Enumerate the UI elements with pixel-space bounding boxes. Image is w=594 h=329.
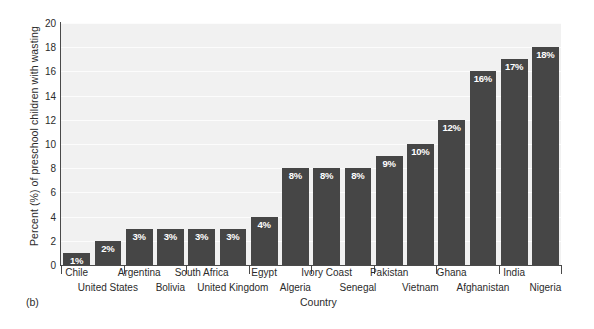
- x-axis-category-label: Argentina: [118, 267, 161, 278]
- bar-value-label: 10%: [407, 146, 434, 157]
- x-axis-category-label: United Kingdom: [197, 282, 268, 293]
- bar-slot: 3%: [124, 23, 155, 265]
- y-axis-tick-label: 14: [4, 90, 56, 101]
- x-axis-category-label: India: [503, 267, 525, 278]
- bar-slot: 3%: [217, 23, 248, 265]
- bar-slot: 1%: [61, 23, 92, 265]
- x-axis-tick: [561, 265, 562, 274]
- bar-value-label: 3%: [188, 231, 215, 242]
- bar-slot: 8%: [342, 23, 373, 265]
- bar[interactable]: 8%: [313, 168, 340, 265]
- x-axis-category-label: Chile: [65, 267, 88, 278]
- y-axis-tick-label: 2: [4, 235, 56, 246]
- x-axis-category-label: Ghana: [437, 267, 467, 278]
- bar[interactable]: 4%: [251, 217, 278, 265]
- bar[interactable]: 16%: [470, 71, 497, 265]
- x-axis-category-label: United States: [78, 282, 138, 293]
- x-axis-category-label: Egypt: [251, 267, 277, 278]
- x-axis-title: Country: [300, 296, 337, 308]
- bar-value-label: 3%: [126, 231, 153, 242]
- x-axis-category-label: Pakistan: [370, 267, 408, 278]
- bar-slot: 9%: [374, 23, 405, 265]
- bar-value-label: 1%: [63, 255, 90, 265]
- x-axis-category-label: Senegal: [340, 282, 377, 293]
- bar[interactable]: 8%: [345, 168, 372, 265]
- x-axis-category-label: Ivory Coast: [301, 267, 352, 278]
- bar-slot: 12%: [436, 23, 467, 265]
- y-axis-tick-labels: 02468101214161820: [0, 0, 56, 329]
- bar[interactable]: 8%: [282, 168, 309, 265]
- bar-value-label: 9%: [376, 158, 403, 169]
- x-axis-category-label: Bolivia: [156, 282, 185, 293]
- bar[interactable]: 9%: [376, 156, 403, 265]
- bar-series: 1%2%3%3%3%3%4%8%8%8%9%10%12%16%17%18%: [61, 23, 561, 265]
- bar-value-label: 8%: [313, 170, 340, 181]
- bar[interactable]: 3%: [157, 229, 184, 265]
- bar-slot: 18%: [530, 23, 561, 265]
- bar-value-label: 17%: [501, 61, 528, 72]
- bar-value-label: 3%: [220, 231, 247, 242]
- bar-chart-figure: Percent (%) of preschool children with w…: [0, 0, 594, 329]
- bar-slot: 2%: [92, 23, 123, 265]
- y-axis-tick-label: 18: [4, 42, 56, 53]
- bar[interactable]: 2%: [95, 241, 122, 265]
- bar-value-label: 8%: [345, 170, 372, 181]
- bar[interactable]: 3%: [126, 229, 153, 265]
- x-axis-category-label: Vietnam: [402, 282, 439, 293]
- bar[interactable]: 18%: [532, 47, 559, 265]
- bar-slot: 4%: [249, 23, 280, 265]
- plot-area: 1%2%3%3%3%3%4%8%8%8%9%10%12%16%17%18%: [61, 23, 561, 265]
- bar[interactable]: 17%: [501, 59, 528, 265]
- y-axis-tick-label: 6: [4, 187, 56, 198]
- x-axis-category-label: Afghanistan: [456, 282, 509, 293]
- y-axis-tick-label: 10: [4, 139, 56, 150]
- bar-value-label: 18%: [532, 49, 559, 60]
- bar-value-label: 12%: [438, 122, 465, 133]
- panel-label: (b): [26, 296, 39, 308]
- bar-value-label: 4%: [251, 219, 278, 230]
- bar-slot: 16%: [467, 23, 498, 265]
- bar-slot: 3%: [186, 23, 217, 265]
- bar-value-label: 2%: [95, 243, 122, 254]
- bar[interactable]: 3%: [188, 229, 215, 265]
- x-axis-category-label: South Africa: [175, 267, 229, 278]
- y-axis-tick-label: 8: [4, 163, 56, 174]
- y-axis-tick-label: 20: [4, 18, 56, 29]
- bar-value-label: 16%: [470, 73, 497, 84]
- bar[interactable]: 3%: [220, 229, 247, 265]
- bar-slot: 10%: [405, 23, 436, 265]
- y-axis-tick-label: 16: [4, 66, 56, 77]
- bar-slot: 3%: [155, 23, 186, 265]
- y-axis-tick-label: 12: [4, 114, 56, 125]
- bar[interactable]: 1%: [63, 253, 90, 265]
- bar-value-label: 3%: [157, 231, 184, 242]
- bar-slot: 8%: [280, 23, 311, 265]
- bar-value-label: 8%: [282, 170, 309, 181]
- y-axis-tick-label: 0: [4, 260, 56, 271]
- y-axis-tick-label: 4: [4, 211, 56, 222]
- bar[interactable]: 10%: [407, 144, 434, 265]
- x-axis-category-label: Algeria: [280, 282, 311, 293]
- bar[interactable]: 12%: [438, 120, 465, 265]
- bar-slot: 17%: [499, 23, 530, 265]
- x-axis-category-label: Nigeria: [530, 282, 562, 293]
- bar-slot: 8%: [311, 23, 342, 265]
